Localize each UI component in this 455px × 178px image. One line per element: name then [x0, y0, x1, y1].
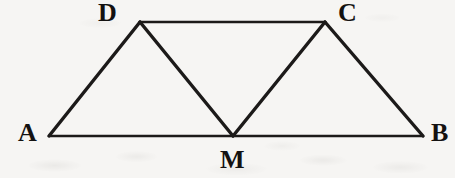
vertex-label-d: D	[98, 0, 117, 26]
geometry-figure: D C A B M	[0, 0, 455, 178]
vertex-label-c: C	[338, 0, 357, 26]
vertex-label-a: A	[18, 120, 37, 146]
segment-ad	[49, 22, 140, 136]
vertex-label-b: B	[431, 120, 448, 146]
segment-dm	[140, 22, 233, 136]
segment-cb	[325, 22, 423, 136]
vertex-label-m: M	[220, 147, 245, 173]
segment-cm	[233, 22, 325, 136]
